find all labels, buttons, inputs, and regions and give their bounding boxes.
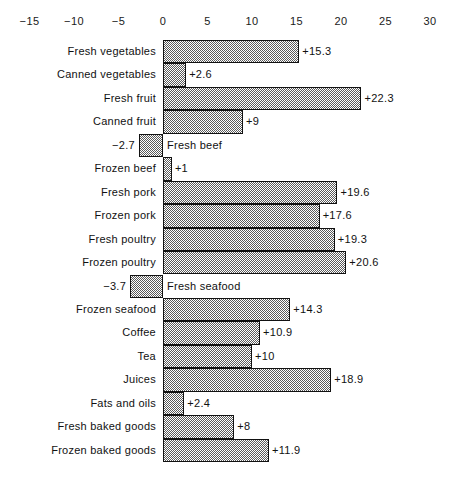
x-axis-tick-30: 30	[423, 16, 436, 27]
bar	[139, 134, 163, 157]
bar-row: Fresh fruit+22.3	[0, 87, 453, 110]
bar	[163, 439, 269, 462]
x-axis-tick-25: 25	[379, 16, 392, 27]
bar-row: Fresh poultry+19.3	[0, 228, 453, 251]
bar	[163, 345, 252, 368]
bar	[163, 110, 243, 133]
bar-value-label: −2.7	[112, 134, 139, 157]
bar-value-label: +17.6	[320, 204, 352, 227]
bar-category-label: Fresh beef	[167, 134, 225, 157]
bar-category-label: Coffee	[122, 321, 160, 344]
bar-value-label: +15.3	[299, 40, 331, 63]
bar-row: Tea+10	[0, 345, 453, 368]
bar-category-label: Fresh pork	[101, 181, 160, 204]
bar-chart: −15−10−5051015202530 Fresh vegetables+15…	[0, 0, 453, 483]
bar-category-label: Fats and oils	[90, 392, 160, 415]
bar-row: Fresh seafood−3.7	[0, 275, 453, 298]
bar-category-label: Juices	[123, 368, 160, 391]
x-axis-tick-neg5: −5	[112, 16, 125, 27]
bar-category-label: Frozen pork	[95, 204, 160, 227]
bar-value-label: +19.3	[335, 228, 367, 251]
bar	[130, 275, 163, 298]
bar	[163, 87, 361, 110]
bar-value-label: +9	[243, 110, 259, 133]
x-axis-tick-neg15: −15	[20, 16, 40, 27]
bar-row: Fresh baked goods+8	[0, 415, 453, 438]
bar-value-label: +22.3	[361, 87, 393, 110]
bar-value-label: +19.6	[337, 181, 369, 204]
bar-category-label: Fresh poultry	[89, 228, 160, 251]
bar	[163, 40, 299, 63]
bar-category-label: Fresh fruit	[104, 87, 160, 110]
bar-row: Frozen poultry+20.6	[0, 251, 453, 274]
bar-row: Fresh pork+19.6	[0, 181, 453, 204]
bar	[163, 63, 186, 86]
bar-category-label: Frozen baked goods	[51, 439, 160, 462]
bar-category-label: Frozen beef	[95, 157, 160, 180]
bar-row: Coffee+10.9	[0, 321, 453, 344]
bar-row: Fresh vegetables+15.3	[0, 40, 453, 63]
bar-row: Canned vegetables+2.6	[0, 63, 453, 86]
bar-row: Fats and oils+2.4	[0, 392, 453, 415]
plot-area: Fresh vegetables+15.3Canned vegetables+2…	[0, 40, 453, 463]
bar-row: Frozen pork+17.6	[0, 204, 453, 227]
bar-value-label: +2.4	[184, 392, 210, 415]
bar-category-label: Frozen poultry	[82, 251, 160, 274]
x-axis-tick-5: 5	[204, 16, 211, 27]
bar	[163, 392, 184, 415]
bar	[163, 415, 234, 438]
bar-row: Canned fruit+9	[0, 110, 453, 133]
bar-value-label: +20.6	[346, 251, 378, 274]
bar-value-label: +10	[252, 345, 275, 368]
bar-row: Frozen seafood+14.3	[0, 298, 453, 321]
bar-value-label: +14.3	[290, 298, 322, 321]
bar-value-label: +11.9	[269, 439, 301, 462]
bar-row: Frozen beef+1	[0, 157, 453, 180]
bar-row: Fresh beef−2.7	[0, 134, 453, 157]
bar	[163, 368, 331, 391]
bar-value-label: +18.9	[331, 368, 363, 391]
bar-value-label: +8	[234, 415, 250, 438]
x-axis-tick-neg10: −10	[64, 16, 84, 27]
bar-category-label: Canned vegetables	[57, 63, 160, 86]
bar	[163, 321, 260, 344]
bar-row: Juices+18.9	[0, 368, 453, 391]
bar-category-label: Fresh baked goods	[58, 415, 160, 438]
bar-category-label: Fresh vegetables	[68, 40, 160, 63]
bar	[163, 181, 337, 204]
x-axis-tick-0: 0	[160, 16, 167, 27]
bar-category-label: Frozen seafood	[76, 298, 160, 321]
x-axis-tick-labels: −15−10−5051015202530	[0, 0, 453, 38]
bar	[163, 204, 320, 227]
x-axis-tick-20: 20	[334, 16, 347, 27]
bar-value-label: −3.7	[103, 275, 130, 298]
bar-value-label: +2.6	[186, 63, 212, 86]
bar	[163, 298, 290, 321]
bar	[163, 157, 172, 180]
bar-category-label: Fresh seafood	[167, 275, 244, 298]
bar-row: Frozen baked goods+11.9	[0, 439, 453, 462]
bar-value-label: +10.9	[260, 321, 292, 344]
bar	[163, 251, 346, 274]
x-axis-tick-15: 15	[290, 16, 303, 27]
bar-category-label: Canned fruit	[93, 110, 160, 133]
bar-category-label: Tea	[138, 345, 161, 368]
bar	[163, 228, 335, 251]
x-axis-tick-10: 10	[245, 16, 258, 27]
bar-value-label: +1	[172, 157, 188, 180]
